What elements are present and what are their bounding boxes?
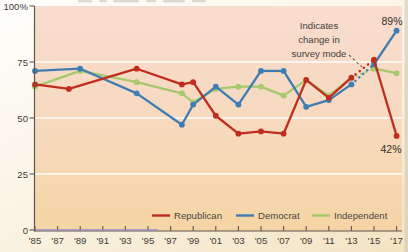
data-point-republican-2003 <box>236 131 242 137</box>
data-point-democrat-2001 <box>213 84 219 90</box>
legend-label: Republican <box>174 210 222 221</box>
data-point-republican-2005 <box>258 129 264 135</box>
data-point-republican-1988 <box>66 86 72 92</box>
data-point-republican-2001 <box>213 113 219 119</box>
x-tick-label: '85 <box>29 235 42 246</box>
data-point-republican-1998 <box>179 82 185 88</box>
data-point-independent-2003 <box>236 84 242 90</box>
x-tick-label: '15 <box>368 235 381 246</box>
x-tick-label: '17 <box>390 235 403 246</box>
data-point-republican-1994 <box>134 66 140 72</box>
legend-label: Democrat <box>258 210 300 221</box>
x-tick-label: '05 <box>255 235 268 246</box>
x-tick-label: '09 <box>300 235 313 246</box>
y-tick-label: 25 <box>17 169 28 180</box>
scan-artifact-top <box>78 0 206 3</box>
x-tick-label: '91 <box>97 235 110 246</box>
x-tick-label: '07 <box>277 235 290 246</box>
x-tick-label: '89 <box>74 235 87 246</box>
x-tick-label: '03 <box>232 235 245 246</box>
x-tick-label: '87 <box>51 235 64 246</box>
data-point-democrat-1999 <box>190 102 196 108</box>
x-tick-label: '01 <box>210 235 223 246</box>
data-point-democrat-2007 <box>281 68 287 74</box>
data-point-democrat-2013 <box>349 82 355 88</box>
legend: RepublicanDemocratIndependent <box>152 210 388 221</box>
data-point-republican-2011 <box>326 95 332 101</box>
x-tick-label: '11 <box>323 235 335 246</box>
data-point-republican-2013 <box>349 75 355 81</box>
data-point-democrat-2017 <box>394 28 400 34</box>
data-point-democrat-2003 <box>236 102 242 108</box>
democrat-end-label: 89% <box>381 15 402 27</box>
data-point-independent-1998 <box>179 90 185 96</box>
data-point-independent-2017 <box>394 70 400 76</box>
x-tick-label: '99 <box>187 235 200 246</box>
line-chart: 100%7550250'85'87'89'91'93'95'97'99'01'0… <box>0 0 408 252</box>
y-tick-label: 50 <box>17 113 28 124</box>
data-point-republican-2015 <box>371 57 377 63</box>
data-point-democrat-1994 <box>134 90 140 96</box>
data-point-independent-1994 <box>134 79 140 85</box>
annotation-line-2: change in <box>298 34 340 45</box>
data-point-democrat-1989 <box>77 66 83 72</box>
y-tick-label: 100% <box>3 1 28 12</box>
x-tick-label: '95 <box>142 235 155 246</box>
annotation-line-1: Indicates <box>300 20 339 31</box>
legend-label: Independent <box>334 210 388 221</box>
data-point-independent-2007 <box>281 93 287 99</box>
chart-page: 100%7550250'85'87'89'91'93'95'97'99'01'0… <box>0 0 408 252</box>
annotation-line-3: survey mode <box>292 48 347 59</box>
data-point-democrat-2009 <box>303 104 309 110</box>
data-point-independent-2005 <box>258 84 264 90</box>
data-point-republican-1999 <box>190 79 196 85</box>
scan-artifact-right-edge <box>405 0 408 252</box>
data-point-republican-2017 <box>394 133 400 139</box>
x-tick-label: '97 <box>164 235 177 246</box>
x-tick-label: '93 <box>119 235 132 246</box>
data-point-republican-2009 <box>303 77 309 83</box>
x-tick-label: '13 <box>345 235 358 246</box>
data-point-democrat-1998 <box>179 122 185 128</box>
republican-end-label: 42% <box>380 143 401 155</box>
data-point-republican-2007 <box>281 131 287 137</box>
data-point-democrat-2005 <box>258 68 264 74</box>
y-tick-label: 0 <box>23 225 28 236</box>
y-tick-label: 75 <box>17 57 28 68</box>
